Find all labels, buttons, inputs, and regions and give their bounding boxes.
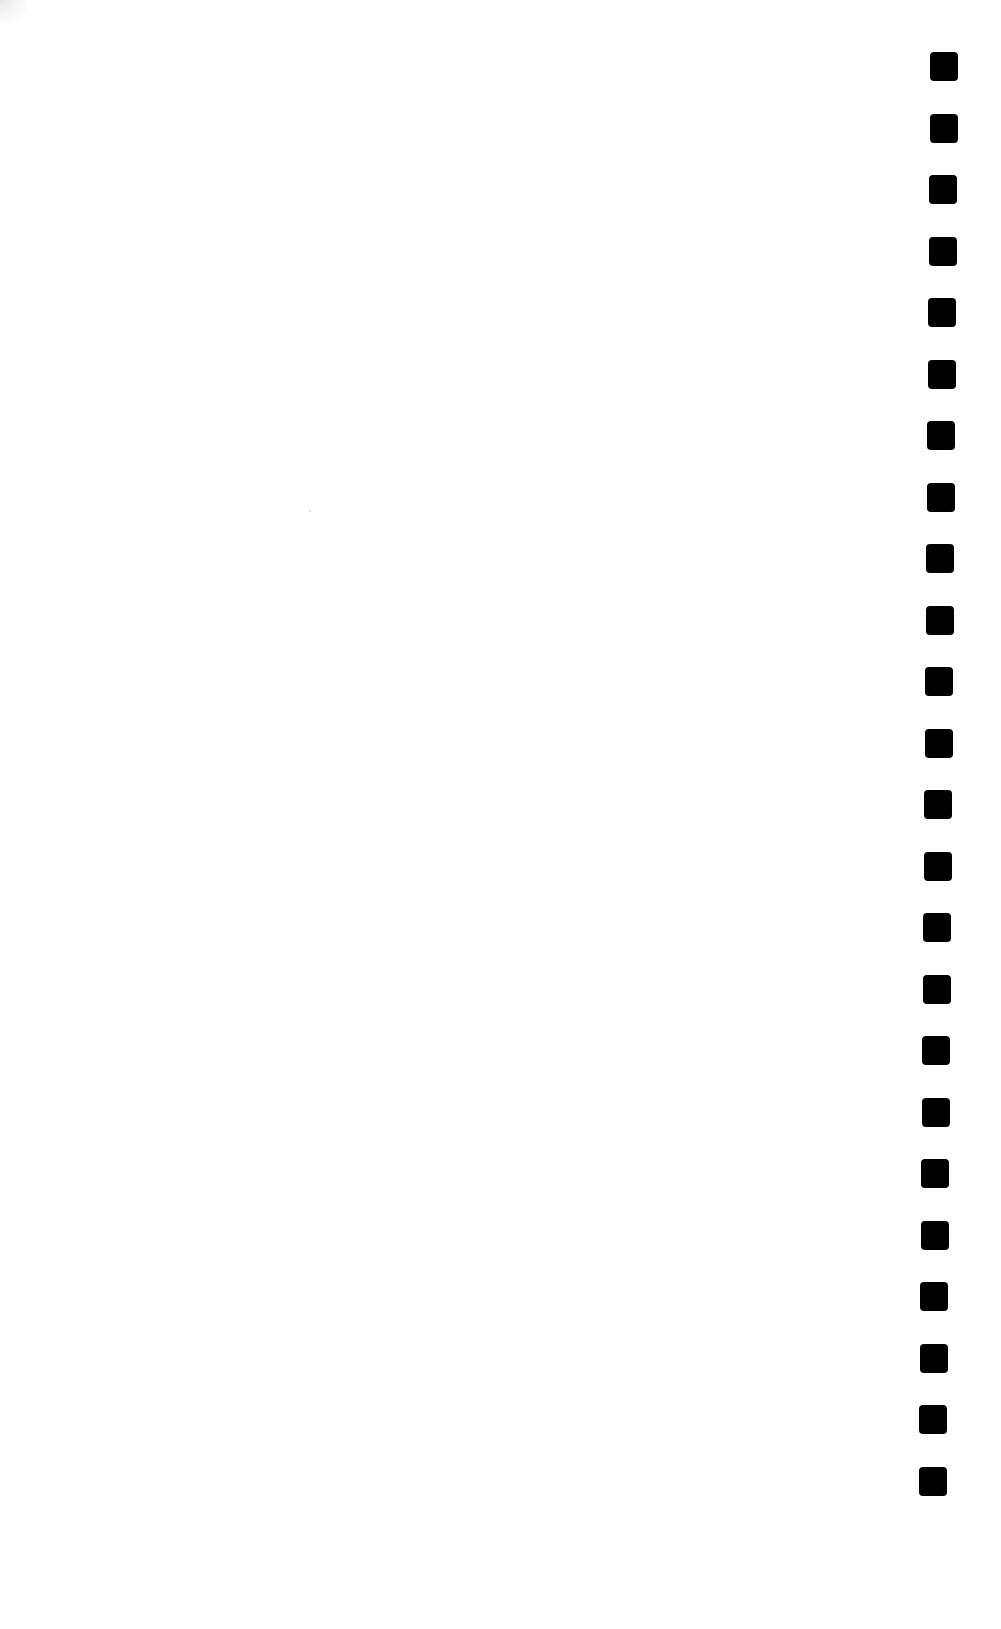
binding-hole-icon: [919, 1467, 947, 1496]
binding-hole-icon: [921, 1159, 949, 1188]
binding-hole-icon: [920, 1344, 948, 1373]
binding-hole-icon: [920, 1282, 948, 1311]
binding-hole-icon: [924, 790, 952, 819]
scan-speck: [309, 510, 311, 512]
binding-hole-icon: [924, 852, 952, 881]
binding-hole-icon: [922, 1098, 950, 1127]
binding-hole-icon: [925, 667, 953, 696]
binding-hole-icon: [926, 606, 954, 635]
scanned-page: [0, 0, 1001, 1629]
binding-hole-icon: [929, 175, 957, 204]
binding-hole-icon: [930, 52, 958, 81]
scan-corner-shadow: [0, 0, 28, 22]
binding-hole-icon: [926, 544, 954, 573]
binding-hole-icon: [923, 975, 951, 1004]
binding-hole-icon: [927, 483, 955, 512]
binding-hole-icon: [919, 1405, 947, 1434]
binding-hole-icon: [929, 237, 957, 266]
binding-hole-icon: [928, 298, 956, 327]
binding-hole-icon: [925, 729, 953, 758]
binding-hole-icon: [927, 421, 955, 450]
binding-hole-icon: [930, 114, 958, 143]
binding-hole-icon: [923, 913, 951, 942]
binding-hole-icon: [922, 1036, 950, 1065]
binding-hole-icon: [921, 1221, 949, 1250]
binding-hole-icon: [928, 360, 956, 389]
